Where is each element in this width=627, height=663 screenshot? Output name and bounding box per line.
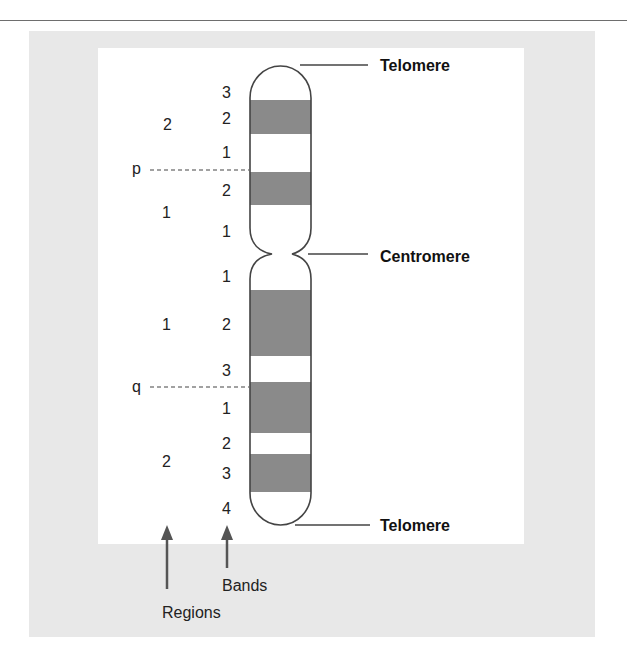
band-label: 3: [222, 465, 231, 482]
dark-band: [245, 382, 317, 433]
dark-band: [245, 100, 317, 134]
band-label: 1: [222, 223, 231, 240]
top-telomere-label: Telomere: [380, 57, 450, 74]
region-label: 2: [162, 453, 171, 470]
chromosome-diagram: Telomere Centromere Telomere p q 2 1 1 2…: [0, 0, 627, 663]
dark-band: [245, 172, 317, 205]
regions-caption: Regions: [162, 604, 221, 621]
band-label: 2: [222, 435, 231, 452]
chromosome-bands: [245, 100, 317, 492]
bands-caption: Bands: [222, 577, 267, 594]
dark-band: [245, 290, 317, 356]
band-label: 1: [222, 400, 231, 417]
band-label: 3: [222, 362, 231, 379]
regions-arrow-icon: [161, 525, 173, 589]
region-label: 1: [162, 204, 171, 221]
region-label: 2: [163, 116, 172, 133]
band-label: 3: [222, 84, 231, 101]
band-label: 2: [222, 110, 231, 127]
p-arm-label: p: [132, 160, 141, 177]
bottom-telomere-label: Telomere: [380, 517, 450, 534]
band-label: 1: [222, 144, 231, 161]
band-label: 4: [222, 500, 231, 517]
band-label: 1: [222, 268, 231, 285]
band-label: 2: [222, 182, 231, 199]
region-label: 1: [162, 316, 171, 333]
dark-band: [245, 454, 317, 492]
centromere-label: Centromere: [380, 248, 470, 265]
q-arm-label: q: [132, 378, 141, 395]
band-label: 2: [222, 316, 231, 333]
bands-arrow-icon: [221, 525, 233, 568]
